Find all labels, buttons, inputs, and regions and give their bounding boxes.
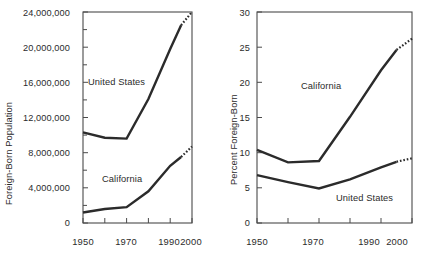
- right-y-ticks: [257, 12, 262, 223]
- right-plot-svg: [220, 0, 437, 260]
- right-plot-frame: [257, 12, 412, 223]
- figure-foreign-born-charts: Foreign-Born Population 24,000,000 20,00…: [0, 0, 437, 260]
- left-line-united-states: [83, 25, 181, 138]
- right-line-california: [257, 50, 397, 162]
- chart-panel-percent-foreign-born: Percent Foreign-Born 30 25 20 15 10 5 0 …: [220, 0, 437, 260]
- right-x-ticks: [257, 218, 412, 223]
- left-y-ticks: [83, 12, 88, 223]
- chart-panel-foreign-born-population: Foreign-Born Population 24,000,000 20,00…: [0, 0, 220, 260]
- right-line-united-states: [257, 162, 397, 189]
- right-line-united-states-projected: [397, 158, 413, 162]
- left-plot-svg: [0, 0, 220, 260]
- left-line-united-states-projected: [181, 12, 192, 25]
- left-x-ticks: [83, 218, 192, 223]
- left-line-california-projected: [181, 147, 192, 158]
- left-line-california: [83, 157, 181, 213]
- right-line-california-projected: [397, 39, 413, 50]
